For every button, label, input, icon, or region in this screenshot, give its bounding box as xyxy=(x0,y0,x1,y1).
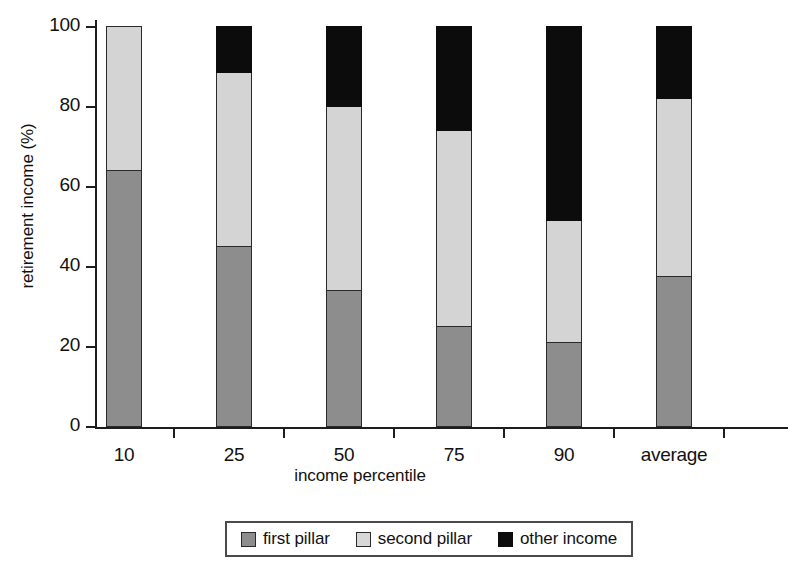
y-axis-tick: 0 xyxy=(86,426,95,428)
bar-segment-first xyxy=(656,276,692,427)
bar-segment-first xyxy=(436,326,472,427)
bar-segment-first xyxy=(326,290,362,427)
x-axis-tick xyxy=(613,429,615,438)
x-axis-tick xyxy=(723,429,725,438)
legend-item-first-pillar: first pillar xyxy=(241,529,330,549)
bar-segment-second xyxy=(326,106,362,291)
y-axis-tick: 100 xyxy=(86,26,95,28)
y-axis-tick: 40 xyxy=(86,266,95,268)
x-axis-category-label: 50 xyxy=(294,444,394,466)
bar-stack xyxy=(326,18,362,427)
bar-segment-second xyxy=(656,98,692,277)
bar-segment-second xyxy=(106,26,142,171)
bar-stack xyxy=(436,18,472,427)
y-axis-tick: 80 xyxy=(86,106,95,108)
bar-segment-first xyxy=(106,170,142,427)
bar-segment-second xyxy=(436,130,472,327)
bar-segment-second xyxy=(546,220,582,343)
bar-segment-other xyxy=(436,26,472,131)
x-axis-tick xyxy=(393,429,395,438)
x-axis-category-label: 90 xyxy=(514,444,614,466)
y-axis-tick-label: 40 xyxy=(59,254,80,276)
bar-segment-other xyxy=(326,26,362,107)
x-axis-category-label: 25 xyxy=(184,444,284,466)
plot-area: 020406080100 1025507590average xyxy=(95,20,795,429)
legend-label-second-pillar: second pillar xyxy=(378,529,472,549)
bar-segment-second xyxy=(216,72,252,247)
bar-segment-other xyxy=(216,26,252,73)
chart-legend: first pillar second pillar other income xyxy=(225,521,633,557)
y-axis-line xyxy=(95,20,97,429)
legend-swatch-second-pillar xyxy=(356,532,371,547)
x-axis-title: income percentile xyxy=(95,466,795,486)
x-axis-category-label: average xyxy=(624,444,724,466)
y-axis-tick-label: 20 xyxy=(59,334,80,356)
bar-segment-first xyxy=(216,246,252,427)
legend-item-other-income: other income xyxy=(498,529,617,549)
y-axis-tick-label: 0 xyxy=(70,414,80,436)
bar-stack xyxy=(216,18,252,427)
legend-swatch-other-income xyxy=(498,532,513,547)
legend-swatch-first-pillar xyxy=(241,532,256,547)
y-axis-tick: 60 xyxy=(86,186,95,188)
bar-segment-other xyxy=(656,26,692,99)
x-axis-category-label: 10 xyxy=(74,444,174,466)
legend-item-second-pillar: second pillar xyxy=(356,529,472,549)
y-axis-tick: 20 xyxy=(86,346,95,348)
y-axis-tick-label: 80 xyxy=(59,94,80,116)
bar-stack xyxy=(106,18,142,427)
x-axis-tick xyxy=(283,429,285,438)
bar-stack xyxy=(546,18,582,427)
x-axis-tick xyxy=(503,429,505,438)
legend-label-first-pillar: first pillar xyxy=(263,529,330,549)
bar-stack xyxy=(656,18,692,427)
bar-segment-other xyxy=(546,26,582,221)
y-axis-title: retirement income (%) xyxy=(18,86,38,326)
x-axis-category-label: 75 xyxy=(404,444,504,466)
stacked-bar-chart: retirement income (%) 020406080100 10255… xyxy=(0,0,795,561)
y-axis-tick-label: 100 xyxy=(49,14,80,36)
x-axis-line xyxy=(95,427,788,429)
bar-segment-first xyxy=(546,342,582,427)
legend-label-other-income: other income xyxy=(520,529,617,549)
x-axis-title-text: income percentile xyxy=(294,466,426,485)
x-axis-tick xyxy=(173,429,175,438)
y-axis-tick-label: 60 xyxy=(59,174,80,196)
